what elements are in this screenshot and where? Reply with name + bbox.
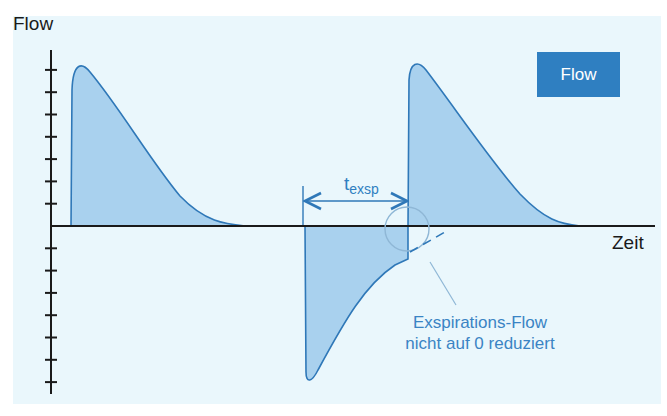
- t-exsp-sub: exsp: [349, 181, 379, 197]
- inspiration-curve-1: [71, 66, 245, 226]
- annotation-line-2: nicht auf 0 reduziert: [388, 333, 572, 354]
- y-axis-label: Flow: [13, 14, 53, 33]
- x-axis-label: Zeit: [612, 233, 644, 252]
- callout-annotation: Exspirations-Flow nicht auf 0 reduziert: [388, 312, 572, 354]
- t-exsp-label: texsp: [344, 173, 379, 197]
- exspiration-curve: [305, 226, 408, 380]
- flow-badge: Flow: [537, 52, 620, 97]
- callout-leader: [430, 262, 456, 305]
- annotation-line-1: Exspirations-Flow: [388, 312, 572, 333]
